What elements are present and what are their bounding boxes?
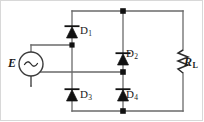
diode-D3 — [65, 89, 80, 101]
diode-D2-label-text: D — [126, 47, 134, 59]
diode-D3-label-text: D — [80, 88, 88, 100]
diode-D3-triangle — [67, 90, 78, 101]
load-label-text: R — [184, 55, 192, 69]
diode-D1-label-text: D — [80, 24, 88, 36]
diode-D4-label-subscript: 4 — [134, 93, 138, 102]
diode-D1-label-subscript: 1 — [88, 29, 92, 38]
diode-D4-label: D4 — [126, 89, 138, 101]
diode-D1-label: D1 — [80, 25, 92, 37]
diode-D2-label-subscript: 2 — [134, 52, 138, 61]
diode-D3-label-subscript: 3 — [88, 93, 92, 102]
diode-D2-label: D2 — [126, 48, 138, 60]
load-label-subscript: L — [192, 61, 198, 70]
diode-D1 — [65, 26, 80, 38]
junction-dot-group — [69, 8, 125, 114]
diode-D1-triangle — [67, 27, 78, 38]
junction-dot-left-ac — [69, 42, 74, 47]
junction-dot-bottom — [120, 108, 126, 114]
diode-D4-label-text: D — [126, 88, 134, 100]
circuit-schematic — [0, 0, 204, 122]
wire-source-to-middle-node — [31, 72, 123, 76]
junction-dot-middle — [120, 69, 126, 75]
load-label: RL — [184, 56, 198, 70]
circuit-figure: E RL D1 D2 D3 D4 — [0, 0, 204, 122]
source-label: E — [8, 57, 16, 69]
junction-dot-top — [120, 8, 126, 14]
source-label-text: E — [8, 56, 16, 70]
ac-source-symbol — [19, 52, 43, 76]
wire-group — [31, 11, 183, 111]
diode-D3-label: D3 — [80, 89, 92, 101]
